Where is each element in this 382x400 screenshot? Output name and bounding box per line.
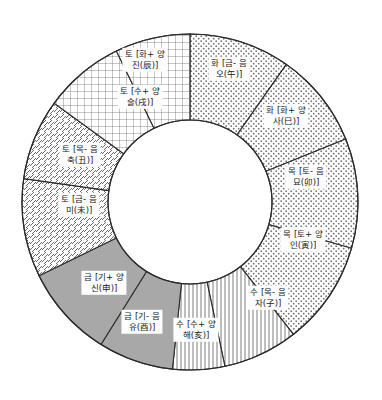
- five-elements-wheel-diagram: 토 [화+ 양진(辰)]토 [수+ 양술(戌)]토 [목- 음축(丑)]토 [금…: [0, 0, 382, 400]
- segments-layer: [22, 34, 358, 370]
- wheel-svg: [0, 0, 382, 400]
- inner-ring-circle: [108, 120, 272, 284]
